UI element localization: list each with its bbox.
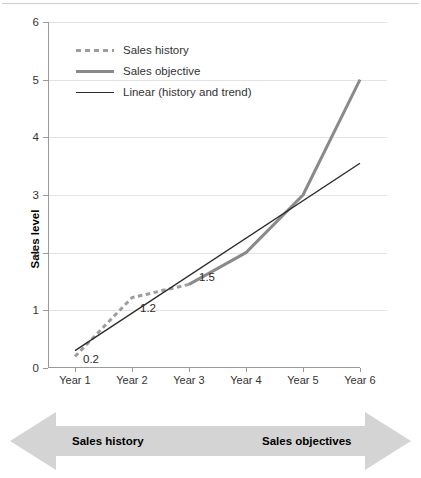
legend-item-sales-history: Sales history — [76, 44, 251, 56]
phase-arrow-banner: Sales history Sales objectives — [0, 404, 421, 478]
y-axis-tick-label: 4 — [33, 131, 39, 143]
x-axis-tick — [246, 368, 247, 372]
data-point-label: 1.5 — [199, 271, 215, 283]
data-point-label: 1.2 — [140, 302, 156, 314]
legend-item-linear-trend: Linear (history and trend) — [76, 86, 251, 98]
top-divider — [2, 3, 419, 4]
x-axis-tick-label: Year 3 — [173, 374, 204, 386]
data-point-label: 0.2 — [83, 353, 99, 365]
x-axis-tick-label: Year 5 — [287, 374, 318, 386]
double-arrow-icon — [0, 404, 421, 478]
chart-legend: Sales history Sales objective Linear (hi… — [76, 44, 251, 98]
y-axis-tick-label: 0 — [33, 362, 39, 374]
series-line — [75, 163, 360, 350]
y-axis-title: Sales level — [29, 210, 41, 269]
x-axis-tick-label: Year 1 — [59, 374, 90, 386]
banner-label-history: Sales history — [72, 435, 144, 447]
legend-label: Linear (history and trend) — [123, 86, 251, 98]
chart-figure: Sales level 0123456 Year 1Year 2Year 3Ye… — [0, 0, 421, 478]
x-axis-tick — [132, 368, 133, 372]
x-axis-tick — [75, 368, 76, 372]
legend-label: Sales objective — [123, 65, 200, 77]
series-line — [189, 80, 360, 285]
legend-swatch-thin-icon — [76, 88, 114, 96]
x-axis-tick — [360, 368, 361, 372]
x-axis-tick — [189, 368, 190, 372]
x-axis-tick-label: Year 6 — [344, 374, 375, 386]
banner-label-objectives: Sales objectives — [262, 435, 352, 447]
y-axis-tick-label: 3 — [33, 189, 39, 201]
series-line — [75, 284, 189, 356]
legend-item-sales-objective: Sales objective — [76, 65, 251, 77]
y-axis-tick-label: 1 — [33, 304, 39, 316]
legend-swatch-dotted-icon — [76, 46, 114, 54]
legend-label: Sales history — [123, 44, 189, 56]
x-axis-tick — [303, 368, 304, 372]
legend-swatch-thick-icon — [76, 67, 114, 75]
x-axis-tick-label: Year 4 — [230, 374, 261, 386]
x-axis-tick-label: Year 2 — [116, 374, 147, 386]
y-axis-tick-label: 5 — [33, 74, 39, 86]
y-axis-tick — [43, 368, 48, 369]
y-axis-tick-label: 6 — [33, 16, 39, 28]
y-axis-tick-label: 2 — [33, 247, 39, 259]
